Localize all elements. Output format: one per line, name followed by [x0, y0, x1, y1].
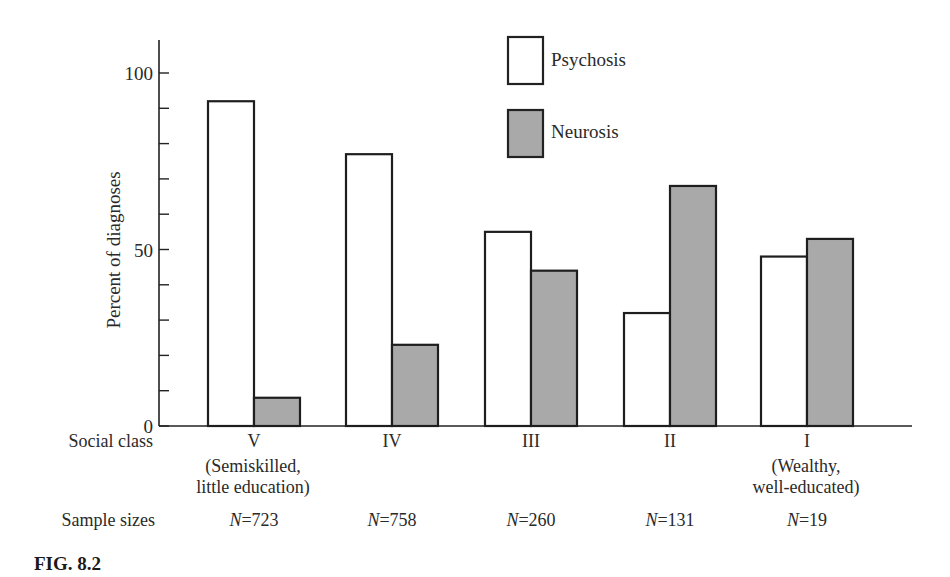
- sample-size-value: N=260: [505, 510, 555, 530]
- class-v-note-line1: (Semiskilled,: [205, 456, 301, 477]
- legend-label-psychosis: Psychosis: [551, 49, 626, 70]
- figure-label: FIG. 8.2: [34, 553, 101, 575]
- sample-sizes-label: Sample sizes: [62, 510, 155, 530]
- bar-neurosis-class-iv: [392, 345, 438, 426]
- category-label: II: [664, 431, 676, 451]
- sample-size-value: N=131: [644, 510, 694, 530]
- bar-psychosis-class-iii: [485, 232, 531, 426]
- legend: Psychosis Neurosis: [508, 37, 626, 157]
- sample-size-value: N=723: [228, 510, 278, 530]
- bar-psychosis-class-i: [761, 257, 807, 426]
- category-label: V: [248, 431, 261, 451]
- bar-psychosis-class-ii: [624, 313, 670, 426]
- sample-size-value: N=19: [786, 510, 827, 530]
- legend-swatch-neurosis: [508, 110, 543, 157]
- category-labels: VIVIIIIII: [248, 431, 811, 451]
- category-label: I: [804, 431, 810, 451]
- legend-label-neurosis: Neurosis: [551, 121, 619, 142]
- y-axis-label: Percent of diagnoses: [103, 171, 124, 328]
- bar-psychosis-class-iv: [346, 154, 392, 426]
- category-label: IV: [383, 431, 402, 451]
- sample-size-value: N=758: [366, 510, 416, 530]
- bar-psychosis-class-v: [208, 101, 254, 426]
- bar-neurosis-class-iii: [531, 271, 577, 426]
- bar-chart: 050100 Psychosis Neurosis Percent of dia…: [0, 0, 950, 577]
- legend-swatch-psychosis: [508, 37, 543, 84]
- bar-neurosis-class-i: [807, 239, 853, 426]
- bar-neurosis-class-v: [254, 398, 300, 426]
- y-tick-label: 50: [134, 240, 153, 261]
- class-i-note-line2: well-educated): [753, 477, 860, 498]
- x-axis-label: Social class: [69, 431, 153, 451]
- class-i-note-line1: (Wealthy,: [772, 456, 841, 477]
- class-v-note-line2: little education): [196, 477, 309, 498]
- y-tick-label: 100: [125, 63, 154, 84]
- sample-size-values: N=723N=758N=260N=131N=19: [228, 510, 827, 530]
- bar-neurosis-class-ii: [670, 186, 716, 426]
- category-label: III: [522, 431, 540, 451]
